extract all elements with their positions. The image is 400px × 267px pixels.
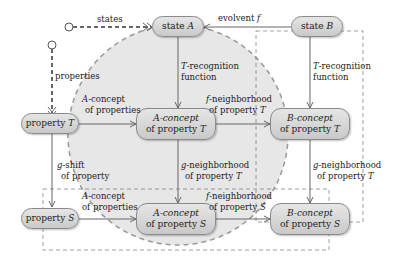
label-t-recognition-a: T-recognition function	[181, 61, 239, 83]
node-state-a: state A	[152, 16, 204, 37]
node-text: state	[301, 21, 324, 31]
label-a-concept-of-properties-t: A-concept of properties	[82, 94, 141, 116]
node-var: A	[187, 21, 194, 31]
node-var: T	[68, 118, 74, 128]
label-evolvent: evolvent f	[218, 13, 260, 24]
label-properties: properties	[55, 71, 100, 82]
node-a-concept-s: A-concept of property S	[136, 203, 216, 235]
node-text: -concept	[294, 208, 333, 218]
node-text: of property	[280, 124, 331, 134]
node-state-b: state B	[291, 16, 343, 37]
node-text: -concept	[160, 208, 199, 218]
node-property-s: property S	[21, 208, 79, 229]
node-property-t: property T	[21, 113, 79, 134]
label-f-neighborhood-t: f-neighborhood of property T	[206, 94, 272, 116]
label-f-neighborhood-s: f-neighborhood of property S	[206, 191, 272, 213]
node-b-concept-t: B-concept of property T	[270, 108, 350, 140]
node-var: B	[287, 208, 294, 218]
node-text: property	[26, 118, 66, 128]
node-text: state	[162, 21, 185, 31]
node-b-concept-s: B-concept of property S	[270, 203, 350, 235]
concept-diagram: state A state B property T property S A-…	[0, 0, 400, 267]
node-text: -concept	[160, 113, 199, 123]
node-var: T	[334, 124, 340, 134]
node-var: B	[287, 113, 294, 123]
label-g-neighborhood-b: g-neighborhood of property T	[313, 160, 381, 182]
node-text: of property	[146, 219, 197, 229]
node-text: property	[26, 213, 66, 223]
label-g-neighborhood-a: g-neighborhood of property T	[181, 160, 249, 182]
node-var: B	[326, 21, 333, 31]
node-text: -concept	[294, 113, 333, 123]
node-var: S	[334, 219, 340, 229]
label-states: states	[97, 14, 123, 25]
label-t-recognition-b: T-recognition function	[313, 61, 371, 83]
label-a-concept-of-properties-s: A-concept of properties	[82, 191, 138, 213]
node-var: T	[200, 124, 206, 134]
node-var: S	[200, 219, 206, 229]
node-a-concept-t: A-concept of property T	[136, 108, 216, 140]
node-text: of property	[280, 219, 331, 229]
label-g-shift: g-shift of property	[57, 160, 109, 182]
node-var: S	[68, 213, 74, 223]
node-text: of property	[146, 124, 197, 134]
